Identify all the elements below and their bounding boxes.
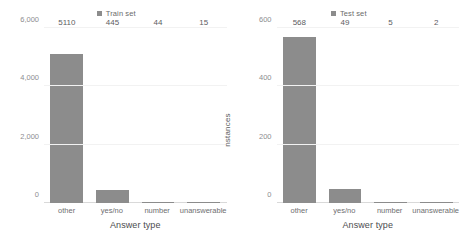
bar-rect[interactable] — [420, 202, 453, 203]
bar-item[interactable]: 49 — [322, 28, 368, 203]
gridline — [44, 27, 227, 28]
bar-value-label: 44 — [154, 18, 163, 27]
bar-value-label: 2 — [434, 18, 438, 27]
y-axis-tick-label: 400 — [259, 73, 272, 82]
y-axis-tick-label: 0 — [35, 190, 39, 199]
x-axis-ticks-test: otheryes/nonumberunanswerable — [277, 206, 460, 215]
x-axis-tick-label: number — [367, 206, 412, 215]
bar-rect[interactable] — [283, 37, 316, 203]
x-axis-tick-label: other — [277, 206, 322, 215]
plot-area-test: 5684952 0200400600 — [277, 28, 460, 203]
figure: Train set nstances 51104454415 02,0004,0… — [0, 0, 465, 239]
bar-value-label: 49 — [340, 18, 349, 27]
bar-value-label: 568 — [293, 18, 306, 27]
legend-label: Test set — [340, 9, 367, 18]
y-axis-tick-label: 4,000 — [20, 73, 39, 82]
x-axis-label: Answer type — [277, 220, 460, 230]
bar-rect[interactable] — [329, 189, 362, 203]
legend-marker-icon — [331, 11, 336, 16]
x-axis-tick-label: number — [135, 206, 180, 215]
x-axis-tick-label: unanswerable — [412, 206, 459, 215]
plot-wrap-train: nstances 51104454415 02,0004,0006,000 ot… — [0, 20, 233, 239]
bar-rect[interactable] — [374, 202, 407, 203]
bar-rect[interactable] — [142, 202, 175, 203]
chart-panel-train: Train set nstances 51104454415 02,0004,0… — [0, 0, 233, 239]
gridline — [44, 144, 227, 145]
x-axis-tick-label: other — [44, 206, 89, 215]
bar-item[interactable]: 15 — [181, 28, 227, 203]
gridline — [44, 85, 227, 86]
bar-item[interactable]: 5 — [368, 28, 414, 203]
x-axis-tick-label: yes/no — [322, 206, 367, 215]
x-axis-tick-label: yes/no — [89, 206, 134, 215]
bar-value-label: 5 — [388, 18, 392, 27]
bar-rect[interactable] — [96, 190, 129, 203]
bar-value-label: 5110 — [58, 18, 75, 27]
bar-item[interactable]: 2 — [413, 28, 459, 203]
y-axis-tick-label: 6,000 — [20, 15, 39, 24]
x-axis-ticks-train: otheryes/nonumberunanswerable — [44, 206, 227, 215]
y-axis-label: nstances — [223, 113, 232, 147]
plot-area-train: 51104454415 02,0004,0006,000 — [44, 28, 227, 203]
plot-wrap-test: nstances 5684952 0200400600 otheryes/non… — [233, 20, 465, 239]
bar-item[interactable]: 445 — [90, 28, 136, 203]
legend-marker-icon — [97, 11, 102, 16]
y-axis-tick-label: 0 — [267, 190, 271, 199]
bar-rect[interactable] — [187, 202, 220, 203]
bar-value-label: 15 — [199, 18, 208, 27]
gridline — [277, 85, 460, 86]
bar-item[interactable]: 5110 — [44, 28, 90, 203]
gridline — [277, 144, 460, 145]
bar-rect[interactable] — [50, 54, 83, 203]
bar-series-train: 51104454415 — [44, 28, 227, 203]
chart-panel-test: Test set nstances 5684952 0200400600 oth… — [233, 0, 465, 239]
legend-label: Train set — [106, 9, 136, 18]
gridline — [277, 27, 460, 28]
x-axis-tick-label: unanswerable — [180, 206, 227, 215]
bar-series-test: 5684952 — [277, 28, 460, 203]
bar-item[interactable]: 568 — [277, 28, 323, 203]
y-axis-tick-label: 200 — [259, 131, 272, 140]
bar-value-label: 445 — [106, 18, 119, 27]
y-axis-tick-label: 600 — [259, 15, 272, 24]
bar-item[interactable]: 44 — [135, 28, 181, 203]
x-axis-label: Answer type — [44, 220, 227, 230]
y-axis-tick-label: 2,000 — [20, 131, 39, 140]
